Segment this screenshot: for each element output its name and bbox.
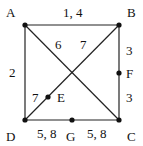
edge-weight-a-c: 6: [55, 38, 62, 51]
node-label-b: B: [127, 6, 136, 19]
node-e-dot: [45, 94, 50, 99]
node-label-g: G: [66, 130, 75, 143]
edge-weight-a-b: 1, 4: [63, 6, 83, 19]
graph-canvas: [0, 0, 143, 146]
node-label-a: A: [6, 6, 15, 19]
edge-weight-d-e: 7: [32, 91, 39, 104]
node-d-dot: [22, 117, 27, 122]
node-label-f: F: [126, 67, 133, 80]
edge-weight-d-g: 5, 8: [37, 127, 57, 140]
edge-weight-g-c: 5, 8: [87, 127, 107, 140]
edge-weight-b-f: 3: [126, 44, 133, 57]
edge-weight-a-d: 2: [9, 66, 16, 79]
edge-weight-f-c: 3: [126, 91, 133, 104]
node-c-dot: [116, 117, 121, 122]
node-f-dot: [116, 70, 121, 75]
node-label-e: E: [57, 91, 65, 104]
node-b-dot: [116, 22, 121, 27]
edge-weight-d-b: 7: [80, 38, 87, 51]
node-label-d: D: [6, 130, 15, 143]
node-a-dot: [22, 22, 27, 27]
node-label-c: C: [127, 130, 136, 143]
node-g-dot: [69, 117, 74, 122]
